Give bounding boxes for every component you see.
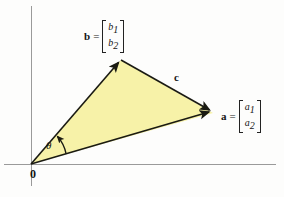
vector-triangle-figure: b = b1 b2 a = a1 a2 c 0 θ	[0, 0, 284, 197]
origin-label: 0	[30, 168, 36, 180]
vector-b-name: b	[84, 31, 90, 42]
vector-c-label: c	[174, 72, 179, 83]
vector-b-components: b1 b2	[106, 21, 120, 52]
theta-label: θ	[46, 140, 51, 151]
vector-a-component-1: a1	[245, 102, 255, 116]
vector-b-brackets: b1 b2	[102, 20, 124, 53]
vector-b-equals: =	[93, 31, 99, 42]
vector-a-components: a1 a2	[243, 101, 257, 132]
vector-a-component-2: a2	[245, 118, 255, 132]
triangle-fill	[31, 60, 213, 164]
vector-a-brackets: a1 a2	[239, 100, 261, 133]
vector-b-component-2: b2	[108, 38, 118, 52]
vector-a-label: a = a1 a2	[221, 100, 261, 133]
vector-a-equals: =	[230, 111, 236, 122]
vector-b-component-1: b1	[108, 22, 118, 36]
vector-a-name: a	[221, 111, 227, 122]
figure-canvas	[0, 0, 284, 197]
vector-b-label: b = b1 b2	[84, 20, 124, 53]
